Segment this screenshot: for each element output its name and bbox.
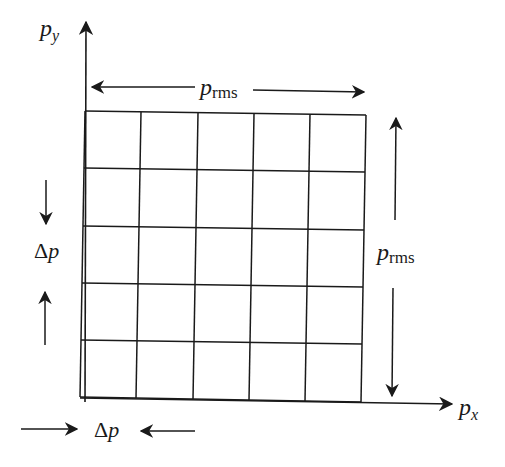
top-span-label: prms [198,74,238,102]
left-delta-label: Δp [34,238,59,263]
grid [80,111,366,402]
y-axis [85,22,86,402]
x-axis-label: px [457,394,478,423]
bottom-delta-label: Δp [94,417,119,442]
y-axis-label: py [38,15,60,45]
right-span-label: prms [375,239,415,267]
phase-space-diagram: prms prms Δp Δp py px [0,0,505,467]
